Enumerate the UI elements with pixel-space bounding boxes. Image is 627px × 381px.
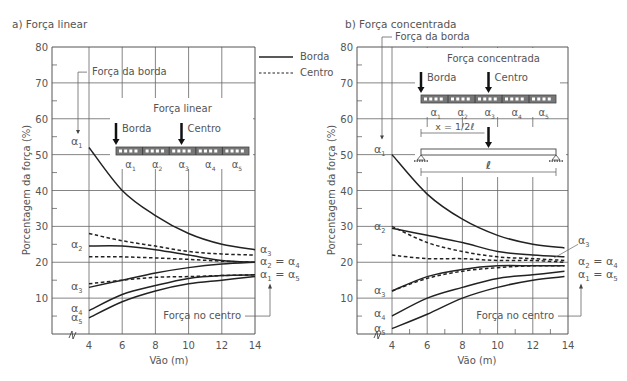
y-axis-title: Porcentagem da força (%) [326,125,337,256]
x-tick-label: 10 [491,340,504,351]
x-tick-label: 6 [119,340,125,351]
x-axis-title: Vão (m) [149,355,188,366]
simply-supported-beam-diagram: x = 1/2ℓℓ [414,121,566,177]
series-line-centro [89,257,255,262]
y-tick-label: 10 [35,293,48,304]
chart-forca-concentrada: b) Força concentrada10203040506070804681… [326,18,618,366]
x-axis-title: Vão (m) [457,355,496,366]
y-tick-label: 60 [340,114,353,125]
x-tick-label: 14 [562,340,575,351]
y-tick-label: 40 [340,186,353,197]
y-tick-label: 80 [340,42,353,53]
y-tick-label: 50 [35,150,48,161]
center-force-annotation: Força no centro [476,310,554,321]
x-tick-label: 8 [459,340,465,351]
alpha-label: α2 [374,220,385,235]
series-line-centro [392,266,564,291]
panel-label: a) Força linear [12,18,88,30]
y-tick-label: 70 [35,78,48,89]
y-tick-label: 80 [35,42,48,53]
y-tick-label: 10 [340,293,353,304]
x-tick-label: 4 [86,340,92,351]
series-line-borda [392,266,564,291]
x-tick-label: 14 [249,340,262,351]
figure-canvas: a) Força linear1020304050607080468101214… [0,0,627,381]
beam-span-label: ℓ [485,159,491,172]
x-tick-label: 6 [424,340,430,351]
alpha-label: α2 [71,238,82,253]
inset-center-label: Centro [495,72,528,83]
inset-title: Força linear [153,103,212,114]
x-tick-label: 10 [182,340,195,351]
y-tick-label: 20 [340,257,353,268]
inset-title: Força concentrada [447,53,540,64]
x-tick-label: 12 [526,340,539,351]
y-tick-label: 20 [35,257,48,268]
chart-forca-linear: a) Força linear1020304050607080468101214… [12,18,300,366]
inset-edge-label: Borda [427,72,456,83]
x-tick-label: 8 [152,340,158,351]
y-tick-label: 30 [35,221,48,232]
beam-position-label: x = 1/2ℓ [435,121,474,132]
alpha-label: α1 [71,135,82,150]
legend-label-borda: Borda [300,51,329,62]
inset-slab-diagram: Força linearBordaCentroα1α2α3α4α5 [110,98,253,172]
legend: BordaCentro [259,51,333,78]
legend-label-centro: Centro [300,67,333,78]
y-tick-label: 40 [35,186,48,197]
label-alpha1-eq-alpha5: α1 = α5 [260,268,300,283]
x-tick-label: 4 [389,340,395,351]
y-tick-label: 70 [340,78,353,89]
x-tick-label: 12 [215,340,228,351]
y-tick-label: 50 [340,150,353,161]
alpha-label: α1 [374,143,385,158]
y-tick-label: 30 [340,221,353,232]
edge-force-annotation: Força da borda [395,31,470,42]
alpha-label: α3 [578,234,589,249]
y-tick-label: 60 [35,114,48,125]
panel-label: b) Força concentrada [345,18,457,30]
inset-slab-diagram: Força concentradaBordaCentroα1α2α3α4α5 [415,48,560,120]
alpha-label: α3 [374,284,385,299]
inset-center-label: Centro [188,123,221,134]
edge-force-annotation: Força da borda [92,66,167,77]
label-alpha1-eq-alpha5: α1 = α5 [578,268,618,283]
y-axis-title: Porcentagem da força (%) [21,125,32,256]
axis-break-icon [69,331,76,339]
alpha-label: α5 [374,322,385,337]
alpha-label: α4 [374,307,385,322]
center-force-annotation: Força no centro [163,310,241,321]
series-line-borda [392,228,564,257]
inset-edge-label: Borda [122,123,151,134]
alpha-label: α3 [71,280,82,295]
